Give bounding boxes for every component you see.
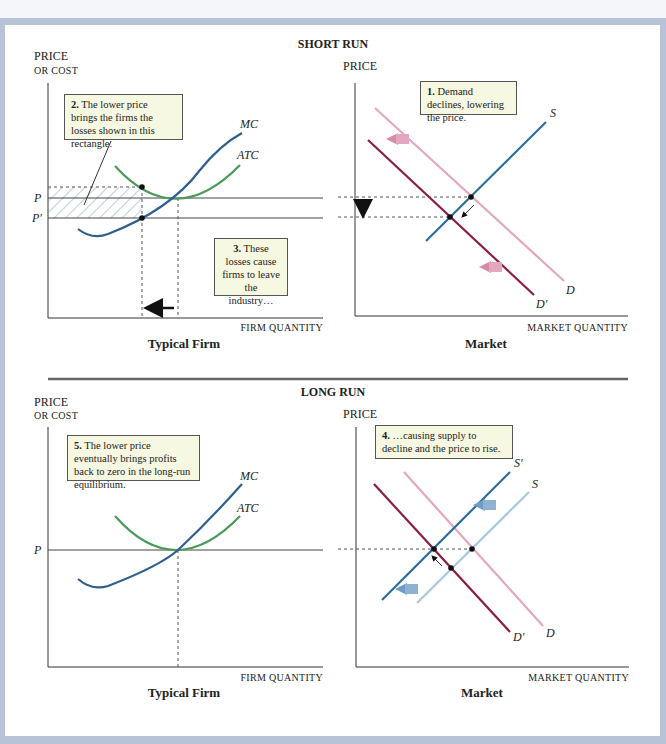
loss-rectangle — [48, 187, 142, 218]
supply-label: S — [532, 477, 538, 491]
mc-label: MC — [239, 469, 259, 483]
chart-title: Typical Firm — [148, 685, 221, 700]
note-4: 4. …causing supply to decline and the pr… — [375, 425, 513, 459]
note-number: 5. — [74, 440, 82, 451]
section-title-long-run: LONG RUN — [301, 385, 366, 399]
atc-point — [139, 184, 145, 190]
chart-title: Market — [465, 336, 508, 351]
demand-curve-d — [375, 108, 564, 281]
note-number: 1. — [427, 86, 435, 97]
equilibrium-original — [469, 546, 475, 552]
price-label-p-prime: P′ — [31, 211, 42, 225]
note-3: 3. These losses cause firms to leave the… — [214, 238, 288, 296]
chart-title: Typical Firm — [148, 336, 221, 351]
atc-label: ATC — [236, 501, 260, 515]
price-label-p: P — [33, 543, 42, 557]
y-axis-label: PRICE — [343, 407, 377, 421]
note-text: These losses cause firms to leave the in… — [222, 243, 280, 306]
note-text: …causing supply to decline and the price… — [382, 430, 500, 454]
y-axis-label-sub: OR COST — [34, 65, 78, 76]
note-number: 2. — [71, 99, 79, 110]
atc-curve — [115, 516, 240, 550]
chart-title: Market — [461, 685, 504, 700]
supply-curve-s-prime — [382, 472, 510, 600]
supply-shift-arrow-bottom-body — [405, 584, 418, 594]
note-number: 3. — [233, 243, 241, 254]
equilibrium-long-run — [431, 546, 437, 552]
mc-point — [139, 215, 145, 221]
supply-shift-arrow-top-body — [483, 500, 496, 510]
equilibrium-short-run — [448, 565, 454, 571]
y-axis-label: PRICE — [343, 59, 377, 73]
equilibrium-old — [468, 194, 474, 200]
price-label-p: P — [33, 191, 42, 205]
section-title-short-run: SHORT RUN — [298, 37, 369, 51]
note-5: 5. The lower price eventually brings pro… — [67, 435, 200, 481]
note-2: 2. The lower price brings the firms the … — [64, 94, 183, 140]
demand-prime-label: D′ — [512, 630, 525, 644]
note-1: 1. Demand declines, lowering the price. — [420, 81, 517, 115]
y-axis-label: PRICE — [34, 395, 68, 409]
demand-label: D — [545, 626, 555, 640]
x-axis-label: FIRM QUANTITY — [240, 322, 323, 333]
supply-label: S — [550, 106, 556, 120]
atc-label: ATC — [236, 148, 260, 162]
x-axis-label: MARKET QUANTITY — [528, 672, 629, 683]
demand-shift-arrow-top-body — [396, 134, 409, 144]
equilibrium-new — [447, 214, 453, 220]
demand-prime-label: D′ — [535, 297, 548, 311]
mc-label: MC — [239, 117, 259, 131]
demand-label: D — [565, 283, 575, 297]
note-number: 4. — [382, 430, 390, 441]
supply-prime-label: S′ — [514, 456, 523, 470]
price-move-arrow — [462, 205, 474, 217]
y-axis-label-sub: OR COST — [34, 410, 78, 421]
x-axis-label: FIRM QUANTITY — [240, 672, 323, 683]
demand-shift-arrow-bottom-body — [489, 262, 502, 272]
y-axis-label: PRICE — [34, 49, 68, 63]
x-axis-label: MARKET QUANTITY — [527, 322, 628, 333]
supply-curve-s — [426, 122, 546, 241]
